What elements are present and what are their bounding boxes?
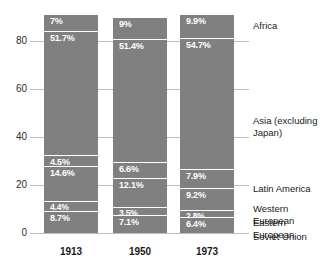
segment-1913-eastern-european[interactable]: 4.4% bbox=[44, 202, 98, 213]
segment-value-label: 54.7% bbox=[186, 40, 211, 50]
ytick-label-40: 40 bbox=[5, 132, 27, 142]
legend-label-latin-america: Latin America bbox=[253, 183, 323, 195]
ytick-label-80: 80 bbox=[5, 36, 27, 46]
segment-1913-western-european[interactable]: 14.6% bbox=[44, 167, 98, 202]
ytick-label-0: 0 bbox=[5, 228, 27, 238]
segment-value-label: 4.5% bbox=[50, 157, 70, 167]
segment-value-label: 9.2% bbox=[186, 190, 206, 200]
segment-value-label: 4.4% bbox=[50, 202, 69, 212]
bar-1973[interactable]: 9.9% 54.7% 7.9% 9.2% 2.8% 6.4% bbox=[180, 15, 234, 233]
segment-value-label: 51.4% bbox=[119, 41, 144, 51]
segment-value-label: 12.1% bbox=[119, 180, 144, 190]
segment-1973-eastern-european[interactable]: 2.8% bbox=[180, 211, 234, 218]
segment-value-label: 7% bbox=[50, 16, 63, 26]
xaxis-label-1973: 1973 bbox=[180, 246, 234, 257]
segment-1913-asia[interactable]: 51.7% bbox=[44, 32, 98, 156]
segment-value-label: 2.8% bbox=[186, 211, 205, 218]
segment-value-label: 14.6% bbox=[50, 168, 75, 178]
segment-value-label: 6.6% bbox=[119, 164, 139, 174]
segment-1973-latin-america[interactable]: 7.9% bbox=[180, 170, 234, 189]
segment-1950-soviet-union[interactable]: 7.1% bbox=[113, 216, 167, 233]
legend-label-soviet-union: Soviet Union bbox=[253, 231, 323, 243]
segment-1950-latin-america[interactable]: 6.6% bbox=[113, 163, 167, 179]
segment-1950-asia[interactable]: 51.4% bbox=[113, 40, 167, 163]
segment-1950-africa[interactable]: 9% bbox=[113, 18, 167, 40]
ytick-label-60: 60 bbox=[5, 84, 27, 94]
bar-1913[interactable]: 7% 51.7% 4.5% 14.6% 4.4% 8.7% bbox=[44, 15, 98, 233]
bar-1950[interactable]: 9% 51.4% 6.6% 12.1% 3.5% 7.1% bbox=[113, 18, 167, 233]
stacked-bar-chart: 80 60 40 20 0 7% 51.7% 4.5% 14.6% 4.4% bbox=[0, 0, 323, 266]
legend-label-africa: Africa bbox=[253, 20, 323, 32]
segment-value-label: 9% bbox=[119, 19, 132, 29]
segment-1913-africa[interactable]: 7% bbox=[44, 15, 98, 32]
segment-value-label: 6.4% bbox=[186, 219, 206, 229]
segment-value-label: 7.9% bbox=[186, 171, 206, 181]
ytick-label-20: 20 bbox=[5, 180, 27, 190]
segment-value-label: 51.7% bbox=[50, 33, 75, 43]
segment-1973-western-european[interactable]: 9.2% bbox=[180, 189, 234, 211]
segment-value-label: 8.7% bbox=[50, 213, 70, 223]
xaxis-label-1950: 1950 bbox=[113, 246, 167, 257]
segment-value-label: 7.1% bbox=[119, 217, 139, 227]
segment-value-label: 9.9% bbox=[186, 16, 206, 26]
segment-value-label: 3.5% bbox=[119, 208, 138, 216]
segment-1950-western-european[interactable]: 12.1% bbox=[113, 179, 167, 208]
legend-label-asia: Asia (excluding Japan) bbox=[253, 115, 323, 138]
segment-1973-soviet-union[interactable]: 6.4% bbox=[180, 218, 234, 233]
segment-1913-latin-america[interactable]: 4.5% bbox=[44, 156, 98, 167]
gridline-0 bbox=[30, 233, 249, 234]
plot-area: 80 60 40 20 0 7% 51.7% 4.5% 14.6% 4.4% bbox=[0, 0, 323, 266]
segment-1973-asia[interactable]: 54.7% bbox=[180, 39, 234, 170]
segment-1950-eastern-european[interactable]: 3.5% bbox=[113, 208, 167, 216]
segment-1913-soviet-union[interactable]: 8.7% bbox=[44, 212, 98, 233]
segment-1973-africa[interactable]: 9.9% bbox=[180, 15, 234, 39]
xaxis-label-1913: 1913 bbox=[44, 246, 98, 257]
